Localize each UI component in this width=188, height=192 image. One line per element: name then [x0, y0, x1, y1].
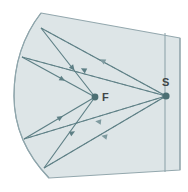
focal-point-label: F	[102, 91, 109, 103]
ray-diagram-canvas: F S	[0, 0, 188, 192]
focal-point-marker	[92, 94, 99, 101]
optics-diagram-figure: F S	[0, 0, 188, 192]
source-point-label: S	[162, 76, 169, 88]
source-point-marker	[162, 92, 169, 99]
